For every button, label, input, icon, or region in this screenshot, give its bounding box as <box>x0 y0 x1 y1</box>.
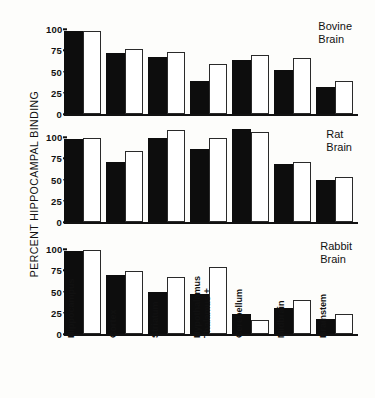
bar-filled <box>106 162 125 222</box>
bar-group <box>106 49 148 114</box>
y-tick-label: 0 <box>46 217 62 228</box>
x-category-label: Cortex <box>108 338 122 396</box>
bar-group <box>106 151 148 222</box>
bar-group <box>64 138 106 223</box>
bar-open <box>251 132 270 223</box>
x-category-label: Cerebellum <box>234 338 248 396</box>
bar-open <box>125 151 144 222</box>
bar-group <box>190 138 232 223</box>
bar-open <box>83 250 102 335</box>
x-category-label: Thalamus +Hypothalamus <box>192 338 206 396</box>
bar-group <box>232 55 274 115</box>
y-axis-title: PERCENT HIPPOCAMPAL BINDING <box>28 54 40 314</box>
bar-open <box>209 64 228 114</box>
y-tick-label: 0 <box>46 109 62 120</box>
x-axis-line <box>64 222 358 224</box>
bar-open <box>125 271 144 335</box>
y-tick-label: 25 <box>46 308 62 319</box>
x-category-label-line2: Hypothalamus <box>192 276 202 338</box>
x-axis-line <box>64 114 358 116</box>
y-tick-label: 75 <box>46 45 62 56</box>
y-tick-label: 100 <box>46 132 62 143</box>
x-category-label-text: Striatum <box>150 301 160 338</box>
bar-open <box>293 300 312 334</box>
x-category-label-text: Hippocampus <box>66 278 76 338</box>
bar-group <box>316 177 358 222</box>
y-tick-label: 50 <box>46 66 62 77</box>
bar-open <box>167 277 186 335</box>
y-tick-label: 75 <box>46 153 62 164</box>
bar-group <box>64 31 106 115</box>
bar-group <box>148 52 190 114</box>
bar-open <box>125 49 144 114</box>
y-tick-label: 0 <box>46 329 62 340</box>
bar-filled <box>190 81 209 115</box>
y-tick-label: 25 <box>46 196 62 207</box>
panel-bovine: Bovine Brain 0255075100 <box>46 18 358 116</box>
bar-filled <box>232 60 251 114</box>
x-category-label: Midbrain <box>276 338 290 396</box>
y-tick-label: 75 <box>46 265 62 276</box>
bar-open <box>251 55 270 115</box>
bar-filled <box>274 70 293 114</box>
x-category-label-text: Brainstem <box>318 294 328 338</box>
x-category-label-line1: Thalamus + <box>202 288 212 338</box>
bar-group <box>316 81 358 115</box>
bar-open <box>335 314 354 334</box>
bar-group <box>148 130 190 222</box>
y-tick-label: 50 <box>46 286 62 297</box>
bar-open <box>167 130 186 222</box>
bar-filled <box>106 53 125 114</box>
x-category-label: Brainstem <box>318 338 332 396</box>
panel-rat: Rat Brain 0255075100 <box>46 126 358 224</box>
bar-open <box>335 177 354 222</box>
bar-open <box>335 81 354 115</box>
bar-filled <box>64 139 83 223</box>
bar-filled <box>190 149 209 223</box>
bar-open <box>209 138 228 223</box>
bar-filled <box>232 129 251 223</box>
bar-open <box>293 162 312 222</box>
x-category-label: Hippocampus <box>66 338 80 396</box>
x-category-label-text: Midbrain <box>276 301 286 339</box>
bar-open <box>293 58 312 114</box>
bar-group <box>190 64 232 114</box>
bar-open <box>83 31 102 115</box>
x-category-label-text: Cortex <box>108 309 118 338</box>
bar-open <box>251 320 270 334</box>
y-tick-label: 100 <box>46 24 62 35</box>
bar-open <box>83 138 102 223</box>
y-tick-label: 50 <box>46 174 62 185</box>
bar-group-container <box>64 18 358 114</box>
bar-group-container <box>64 126 358 222</box>
y-tick-label: 100 <box>46 244 62 255</box>
bar-group <box>274 58 316 114</box>
bar-filled <box>316 87 335 115</box>
bar-filled <box>148 138 167 223</box>
bar-filled <box>316 180 335 223</box>
bar-filled <box>64 31 83 115</box>
chart-figure: PERCENT HIPPOCAMPAL BINDING Bovine Brain… <box>0 0 375 398</box>
bar-filled <box>274 164 293 223</box>
bar-open <box>167 52 186 114</box>
bar-group <box>274 162 316 222</box>
x-axis-category-labels: HippocampusCortexStriatumThalamus +Hypot… <box>64 338 375 398</box>
bar-group <box>232 129 274 223</box>
x-category-label: Striatum <box>150 338 164 396</box>
bar-filled <box>148 57 167 114</box>
y-tick-label: 25 <box>46 88 62 99</box>
x-category-label-text: Cerebellum <box>234 289 244 338</box>
